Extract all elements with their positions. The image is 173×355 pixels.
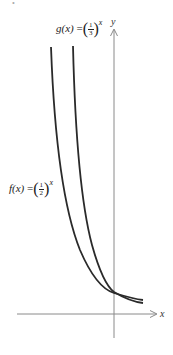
corner-mark: • (12, 0, 15, 8)
label-g-exponent: x (99, 18, 103, 27)
label-f-exponent: x (49, 178, 53, 187)
graph-canvas (0, 0, 173, 355)
label-f-name: f(x) (9, 182, 24, 194)
y-axis-label: y (111, 16, 115, 27)
curve-g (73, 46, 143, 303)
label-g: g(x) =(13)x (56, 21, 102, 37)
label-f: f(x) =(12)x (9, 181, 53, 197)
x-axis-label: x (160, 308, 164, 319)
label-g-name: g(x) (56, 22, 74, 34)
